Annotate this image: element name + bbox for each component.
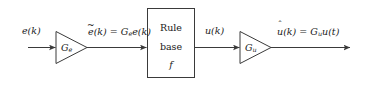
control-output-label: u(k) — [205, 26, 224, 36]
output-gain-label: Gu — [245, 43, 257, 54]
output-eq-part2: u(t) — [322, 26, 339, 37]
rule-base-line1: Rule — [148, 23, 195, 33]
tilde-accent-icon: ~ — [87, 21, 95, 30]
output-gain-letter: G — [245, 42, 253, 53]
input-gain-subscript: e — [69, 46, 73, 54]
hat-accent-icon: ˆ — [278, 21, 283, 30]
rule-base-function-label: f — [148, 60, 195, 70]
scaled-output-symbol: ˆu — [277, 27, 283, 37]
input-gain-equation: ~e(k) = Gee(k) — [88, 27, 151, 38]
output-gain-subscript: u — [253, 46, 257, 54]
block-diagram: e(k) Ge ~e(k) = Gee(k) Rule base f u(k) … — [0, 0, 366, 93]
input-eq-part1: (k) = G — [94, 26, 129, 37]
scaled-error-symbol: ~e — [88, 27, 94, 37]
input-gain-letter: G — [61, 42, 69, 53]
rule-base-line2: base — [148, 42, 195, 52]
output-eq-part1: (k) = G — [283, 26, 318, 37]
input-gain-label: Ge — [61, 43, 72, 54]
input-signal-label: e(k) — [22, 26, 41, 36]
output-gain-equation: ˆu(k) = Guu(t) — [277, 27, 339, 38]
